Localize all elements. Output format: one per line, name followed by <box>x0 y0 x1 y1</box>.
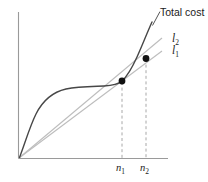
label-line-l2: l2 <box>172 33 179 45</box>
axis-tick-label-n2: n2 <box>140 163 149 174</box>
label-total-cost: Total cost <box>160 7 204 18</box>
figure-canvas <box>0 0 208 182</box>
axis-tick-label-n2-subscript: 2 <box>145 167 149 176</box>
label-line-l1: l1 <box>172 45 179 57</box>
total-cost-leader-line <box>153 12 161 26</box>
point-marker-n1 <box>119 78 126 85</box>
ray-l1 <box>19 51 162 158</box>
axis-tick-label-n1-subscript: 1 <box>121 167 125 176</box>
total-cost-curve <box>20 22 153 158</box>
point-marker-n2 <box>143 55 150 62</box>
axis-tick-label-n1: n1 <box>116 163 125 174</box>
cost-curve-figure: Total cost l2 l1 n1 n2 <box>0 0 208 182</box>
label-line-l1-subscript: 1 <box>175 50 179 59</box>
ray-l2 <box>19 38 162 158</box>
